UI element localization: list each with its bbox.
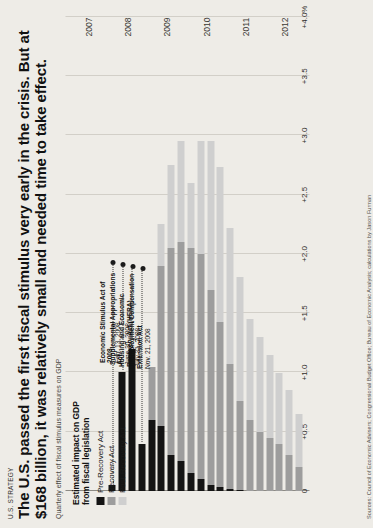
legend-item-label: Post-Recovery Act xyxy=(117,427,126,493)
bar-row xyxy=(266,7,273,519)
bar-segment xyxy=(197,254,204,479)
section-kicker: U.S. STRATEGY xyxy=(6,8,13,519)
bar-segment xyxy=(167,165,174,248)
bar-row xyxy=(128,7,135,519)
bar-segment xyxy=(187,183,194,248)
page-title: The U.S. passed the first fiscal stimulu… xyxy=(15,8,49,519)
bar-segment xyxy=(295,414,302,467)
legend-item-post-recovery-act: Post-Recovery Act xyxy=(117,387,126,505)
bar-row xyxy=(275,7,282,519)
bar-segment xyxy=(207,141,214,289)
x-axis-tick-label: 2011 xyxy=(240,18,250,36)
bar-row xyxy=(295,7,302,519)
leader-dot-icon xyxy=(120,262,125,267)
bar-segment xyxy=(138,444,145,491)
legend-item-label: Pre-Recovery Act xyxy=(95,431,104,493)
bar-segment xyxy=(216,168,223,322)
bar-row xyxy=(148,7,155,519)
bar-segment xyxy=(207,290,214,486)
bar-segment xyxy=(167,455,174,491)
bar-segment xyxy=(197,141,204,254)
annotation-name: Economic Stimulus Act of 2008 xyxy=(98,267,114,363)
bar-segment xyxy=(187,248,194,473)
x-axis-tick-label: 2008 xyxy=(122,18,132,37)
bar-segment xyxy=(177,461,184,491)
bar-segment xyxy=(148,367,155,420)
bar-segment xyxy=(128,349,135,491)
bar-segment xyxy=(285,390,292,455)
x-axis-tick-label: 2010 xyxy=(201,18,211,37)
leader-dot-icon xyxy=(110,260,115,265)
bar-segment xyxy=(197,479,204,491)
legend-title: Estimated impact on GDP from fiscal legi… xyxy=(71,387,91,505)
bar-segment xyxy=(246,319,253,420)
bar-row xyxy=(216,7,223,519)
bar-segment xyxy=(226,364,233,488)
bar-row xyxy=(187,7,194,519)
bar-segment xyxy=(177,242,184,461)
bar-row xyxy=(226,7,233,519)
bar-row xyxy=(236,7,243,519)
legend-item-pre-recovery-act: Pre-Recovery Act xyxy=(95,387,104,505)
bar-segment xyxy=(177,141,184,242)
bar-segment xyxy=(207,485,214,491)
source-note: Sources: Council of Economic Advisers; C… xyxy=(365,195,371,519)
bar-segment xyxy=(216,322,223,488)
x-axis-tick-label: 2012 xyxy=(279,18,289,37)
annotation-leader-line xyxy=(112,263,114,483)
chart-figure: U.S. STRATEGY The U.S. passed the first … xyxy=(0,0,373,528)
x-axis-tick-label: 2007 xyxy=(83,18,93,37)
bar-segment xyxy=(266,355,273,438)
bar-segment xyxy=(275,373,282,444)
bar-row xyxy=(246,7,253,519)
annotation-leader-line xyxy=(122,265,124,371)
bar-segment xyxy=(256,337,263,432)
bar-segment xyxy=(157,266,164,426)
annotation-economic-stimulus-act: Economic Stimulus Act of 2008 Feb. 13, 2… xyxy=(98,267,121,363)
bar-row xyxy=(177,7,184,519)
bar-segment xyxy=(187,473,194,491)
bar-segment xyxy=(295,467,302,491)
bar-segment xyxy=(226,228,233,364)
bar-segment xyxy=(275,444,282,491)
bar-row xyxy=(157,7,164,519)
bar-segment xyxy=(266,438,273,491)
leader-dot-icon xyxy=(130,264,135,269)
annotation-date: June 30, 2008 xyxy=(123,323,130,365)
annotation-leader-line xyxy=(141,269,143,442)
annotation-leader-line xyxy=(131,267,133,347)
bar-segment xyxy=(157,426,164,491)
legend-swatch-icon xyxy=(96,497,104,505)
bar-segment xyxy=(167,248,174,455)
annotation-date: July 31, 2008 xyxy=(133,328,140,367)
bar-row xyxy=(197,7,204,519)
chart-subtitle: Quarterly effect of fiscal stimulus meas… xyxy=(54,8,61,519)
bar-row xyxy=(167,7,174,519)
bar-row xyxy=(138,7,145,519)
annotation-date: Feb. 13, 2008 xyxy=(113,322,120,363)
bar-segment xyxy=(226,489,233,491)
bar-segment xyxy=(256,432,263,491)
bar-row xyxy=(285,7,292,519)
bar-segment xyxy=(236,277,243,401)
x-axis-tick-label: 2009 xyxy=(161,18,171,37)
bar-segment xyxy=(216,487,223,491)
bar-segment xyxy=(148,420,155,491)
bar-row xyxy=(256,7,263,519)
rotated-figure-wrapper: U.S. STRATEGY The U.S. passed the first … xyxy=(0,0,373,528)
plot-area: 0+0.5+1.0+1.5+2.0+2.5+3.0+3.5+4.0% 20072… xyxy=(65,7,327,519)
bar-segment xyxy=(157,224,164,265)
bar-segment xyxy=(246,420,253,491)
annotation-date: Nov. 21, 2008 xyxy=(143,328,150,369)
bar-segment xyxy=(236,401,243,490)
leader-dot-icon xyxy=(140,266,145,271)
legend-swatch-icon xyxy=(118,497,126,505)
legend-swatch-icon xyxy=(107,497,115,505)
chart-legend: Estimated impact on GDP from fiscal legi… xyxy=(71,387,129,505)
bar-row xyxy=(207,7,214,519)
bar-segment xyxy=(236,490,243,491)
bar-segment xyxy=(285,455,292,491)
